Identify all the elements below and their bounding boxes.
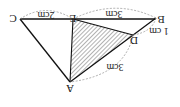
vertex-label-E: E [69, 13, 76, 25]
segment-CA [20, 19, 70, 82]
measure-EB: 3cm [105, 9, 122, 20]
measure-CE: 2cm [37, 10, 54, 21]
vertex-label-A: A [66, 83, 74, 95]
vertex-label-C: C [9, 13, 16, 25]
vertex-label-B: B [157, 14, 164, 26]
triangle-diagram: C E B D A 2cm 3cm 1 cm 3cm [0, 0, 180, 107]
vertex-label-D: D [130, 35, 138, 47]
measure-BD: 1 cm [149, 26, 169, 37]
measure-DA: 3cm [106, 62, 123, 73]
